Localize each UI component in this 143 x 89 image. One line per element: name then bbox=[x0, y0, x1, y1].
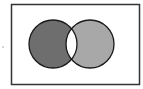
venn-svg bbox=[0, 0, 143, 89]
venn-diagram bbox=[0, 0, 143, 89]
